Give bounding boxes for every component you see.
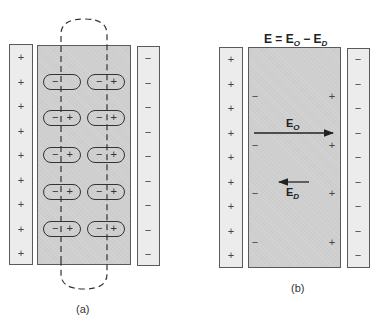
dashed-gaussian-outline [0,0,190,324]
panel-a: +++++++++ −−−−−−−−− −−+−+−+−+−+−+−+−+−+ … [0,0,190,324]
panel-b: E = EO − ED +++++++++ −−−−−−−−− −+−+−+−+… [190,0,377,324]
label-e-applied: EO [286,117,300,132]
caption-a: (a) [76,303,89,315]
caption-b: (b) [291,282,304,294]
label-e-depolarizing: ED [286,186,299,201]
field-arrows [190,0,377,324]
